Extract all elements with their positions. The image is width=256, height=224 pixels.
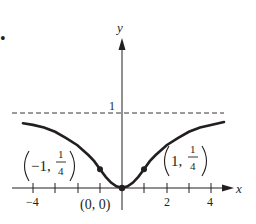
y-axis-label: y	[115, 20, 123, 35]
point-neg1	[97, 166, 103, 172]
svg-text:1: 1	[190, 143, 196, 155]
function-curve	[23, 122, 224, 188]
point-pos1	[141, 166, 147, 172]
x-axis-arrow-icon	[222, 185, 234, 192]
point-origin	[119, 185, 125, 191]
svg-text:4: 4	[190, 160, 196, 172]
y-axis-arrow-icon	[119, 38, 126, 50]
y-tick-label-1: 1	[109, 99, 115, 113]
x-tick-label-4: 4	[207, 195, 213, 209]
label-point-neg1: −1, 1 4	[25, 148, 75, 181]
x-tick-label-2: 2	[164, 195, 170, 209]
label-origin: (0, 0)	[80, 197, 111, 213]
svg-text:−1,: −1,	[31, 158, 51, 174]
bullet-marker: •	[0, 30, 6, 47]
svg-text:1,: 1,	[171, 153, 182, 169]
x-axis-label: x	[235, 181, 242, 196]
svg-text:1: 1	[58, 148, 64, 160]
chart-canvas: • x y 1 −4 2 4 −1, 1 4 1, 1	[0, 0, 256, 224]
x-tick-label-neg4: −4	[26, 195, 39, 209]
label-point-pos1: 1, 1 4	[165, 143, 207, 176]
svg-text:4: 4	[58, 165, 64, 177]
